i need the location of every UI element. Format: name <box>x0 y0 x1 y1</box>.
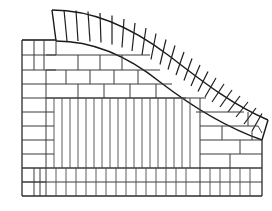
masonry-arch-elevation-drawing: Masonry arch and coursed stone wall elev… <box>0 0 272 211</box>
masonry-drawing-root: Masonry arch and coursed stone wall elev… <box>0 0 272 211</box>
